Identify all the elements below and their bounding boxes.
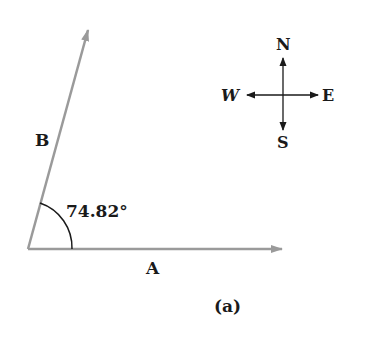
vector-a-label: A: [146, 258, 159, 278]
figure-caption: (a): [214, 296, 241, 316]
compass-east-label: E: [322, 86, 334, 105]
compass-north-label: N: [276, 35, 291, 54]
vector-b-label: B: [35, 130, 49, 150]
compass-west-label: W: [221, 86, 239, 105]
compass-rose: [247, 58, 318, 130]
vector-diagram: [0, 0, 366, 339]
angle-label: 74.82°: [66, 201, 128, 221]
compass-south-label: S: [277, 133, 289, 152]
